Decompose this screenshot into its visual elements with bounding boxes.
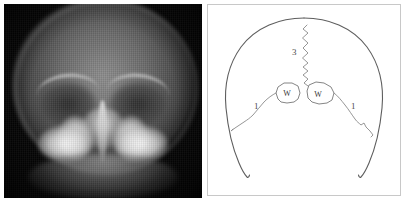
diagram-panel: 1 1 3 W W	[207, 4, 401, 196]
nasal-septum	[98, 100, 107, 162]
suture-label-sagittal: 3	[292, 47, 297, 57]
wormian-bone-left-label: W	[283, 89, 291, 98]
mandible-shadow	[28, 154, 178, 198]
sagittal-suture	[303, 25, 309, 86]
figure-container: 1 1 3 W W	[0, 0, 406, 204]
xray-panel	[4, 4, 202, 198]
suture-label-left: 1	[254, 101, 259, 111]
suture-left-limb	[231, 93, 276, 131]
wormian-bone-right-label: W	[314, 90, 322, 99]
suture-right-limb	[334, 93, 373, 137]
skull-suture-diagram: 1 1 3 W W	[208, 5, 400, 195]
suture-label-right: 1	[351, 101, 356, 111]
